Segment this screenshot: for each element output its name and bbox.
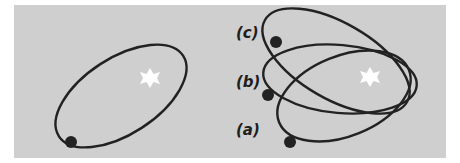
planet-dot — [65, 136, 77, 148]
label-b: (b) — [236, 73, 260, 91]
orbit-ellipse — [38, 24, 204, 163]
planet-dot-b — [262, 89, 274, 101]
right-orbits-group — [246, 0, 426, 159]
label-a: (a) — [236, 121, 260, 139]
orbit-ellipse-b — [260, 38, 419, 119]
label-c: (c) — [236, 24, 259, 42]
orbit-ellipse-c — [246, 0, 426, 135]
planet-dot-c — [270, 36, 282, 48]
planet-dot-a — [284, 136, 296, 148]
orbit-diagram: (c) (b) (a) — [0, 0, 460, 163]
left-orbit-group — [38, 24, 204, 163]
star-icon — [140, 68, 160, 88]
star-icon — [360, 67, 380, 87]
